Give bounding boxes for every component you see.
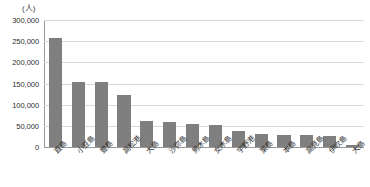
y-axis-tick-label: 50,000 [16, 121, 39, 130]
y-axis-tick-label: 150,000 [12, 79, 39, 88]
y-axis-tick-label: 200,000 [12, 58, 39, 67]
plot-area [44, 20, 364, 147]
y-axis-tick-label: 300,000 [12, 16, 39, 25]
bar [49, 38, 62, 147]
y-axis: 300,000250,000200,000150,000100,00050,00… [0, 0, 42, 187]
y-axis-tick-label: 0 [35, 143, 39, 152]
y-axis-tick-label: 100,000 [12, 100, 39, 109]
bars-series [44, 20, 364, 147]
y-axis-tick-label: 250,000 [12, 37, 39, 46]
bar-chart: (人) 300,000250,000200,000150,000100,0005… [0, 0, 370, 187]
x-axis: 直島小豆島豊島高松港大島沙弥島男木島女木島宇野港栗島本島高見島伊吹島大島 [44, 148, 364, 187]
bar [95, 82, 108, 147]
